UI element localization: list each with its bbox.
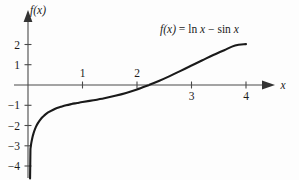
x-axis-label: x	[279, 79, 286, 91]
plot-canvas: 1 2 3 4 2 1 −1 −2 −3 −4 f(x) x f(x) = ln…	[0, 0, 299, 180]
y-tick-label-1: 1	[14, 59, 20, 71]
x-tick-label-2: 2	[134, 67, 140, 79]
equation-fx: f(x)	[160, 23, 176, 36]
x-tick-label-1: 1	[80, 67, 86, 79]
function-curve	[30, 44, 246, 178]
y-tick-label-neg3: −3	[8, 140, 20, 152]
y-axis-label: f(x)	[30, 4, 46, 17]
y-tick-label-neg4: −4	[8, 160, 20, 172]
function-plot-figure: 1 2 3 4 2 1 −1 −2 −3 −4 f(x) x f(x) = ln…	[0, 0, 299, 180]
y-tick-label-neg2: −2	[8, 120, 20, 132]
x-tick-label-3: 3	[189, 90, 195, 102]
x-axis-arrow-icon	[262, 81, 275, 90]
x-tick-label-4: 4	[243, 90, 249, 102]
y-tick-label-2: 2	[14, 39, 20, 51]
y-tick-label-neg1: −1	[8, 99, 20, 111]
equation-x2: x	[233, 23, 240, 35]
equation-sin: sin	[217, 23, 231, 35]
equation-ln: ln	[188, 23, 197, 35]
equation-annotation: f(x) = ln x − sin x	[160, 23, 240, 36]
